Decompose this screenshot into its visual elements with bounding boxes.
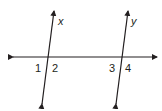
angle-4-label: 4 [125, 62, 131, 74]
parallel-lines-diagram: x y 1 2 3 4 [0, 0, 162, 111]
angle-2-label: 2 [52, 62, 58, 74]
line-x-label: x [57, 15, 64, 27]
line-y-label: y [130, 15, 138, 27]
angle-1-label: 1 [35, 62, 41, 74]
angle-3-label: 3 [109, 62, 115, 74]
